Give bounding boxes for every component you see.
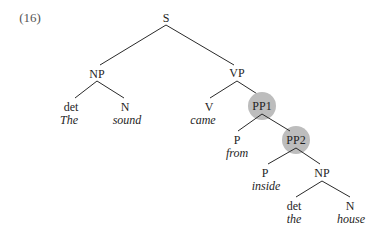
node-np-subject: NP [89,68,104,80]
edge-np-n2 [322,181,350,197]
word-inside: inside [252,180,281,192]
word-sound: sound [113,114,142,126]
word-house: house [337,213,365,225]
node-pp2: PP2 [286,134,305,146]
edge-pp1-p [238,114,262,131]
node-n-subject: N [121,101,130,113]
word-the-object: the [287,213,302,225]
node-v: V [205,101,214,113]
edge-np-n [97,81,124,98]
node-vp: VP [229,67,244,79]
word-the-subject: The [60,114,78,126]
node-det-object: det [287,200,302,212]
node-pp1: PP1 [252,100,271,112]
node-n-object: N [346,200,355,212]
edge-s-vp [166,25,234,65]
edge-np-det2 [296,181,322,197]
edge-vp-v [210,81,237,98]
node-det-subject: det [64,101,79,113]
node-s: S [163,12,170,24]
node-np-object: NP [314,167,329,179]
node-p1: P [234,134,241,146]
edge-pp2-np [296,148,320,164]
word-from: from [226,147,248,159]
edge-pp1-pp2 [262,114,290,131]
edge-pp2-p [268,148,296,164]
word-came: came [190,114,215,126]
edge-np-det [75,81,97,98]
example-number: (16) [19,11,41,24]
edge-s-np [100,25,166,65]
node-p2: P [262,167,269,179]
